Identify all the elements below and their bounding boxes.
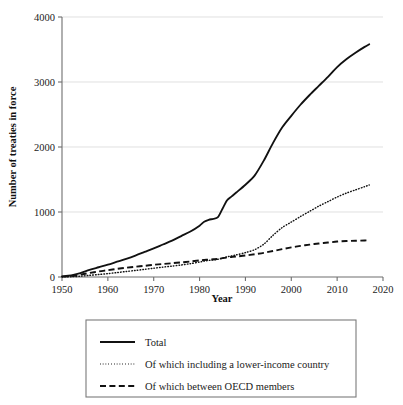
- y-axis-tick-group: 01000200030004000: [34, 12, 62, 283]
- x-tick-label: 2010: [327, 284, 348, 295]
- series-line-lower-income: [62, 185, 369, 277]
- line-chart-canvas: 01000200030004000 1950196019701980199020…: [0, 0, 403, 405]
- series-line-total: [62, 44, 369, 276]
- x-tick-label: 1970: [143, 284, 164, 295]
- legend-label: Of which between OECD members: [145, 381, 294, 392]
- x-axis-title: Year: [212, 293, 233, 304]
- x-tick-label: 2000: [281, 284, 302, 295]
- chart-figure: 01000200030004000 1950196019701980199020…: [0, 0, 403, 405]
- y-tick-label: 0: [50, 272, 55, 283]
- x-tick-label: 1960: [97, 284, 118, 295]
- y-tick-label: 1000: [34, 207, 55, 218]
- legend-label: Of which including a lower-income countr…: [145, 359, 330, 370]
- legend-entry-group: TotalOf which including a lower-income c…: [100, 337, 330, 392]
- y-tick-label: 3000: [34, 77, 55, 88]
- x-tick-label: 1980: [189, 284, 210, 295]
- gridline-group: [62, 17, 383, 212]
- y-tick-label: 2000: [34, 142, 55, 153]
- x-tick-label: 2020: [373, 284, 394, 295]
- series-line-oecd: [62, 240, 369, 276]
- x-tick-label: 1950: [52, 284, 73, 295]
- y-tick-label: 4000: [34, 12, 55, 23]
- y-axis-title: Number of treaties in force: [7, 86, 18, 207]
- legend-label: Total: [145, 337, 167, 348]
- x-tick-label: 1990: [235, 284, 256, 295]
